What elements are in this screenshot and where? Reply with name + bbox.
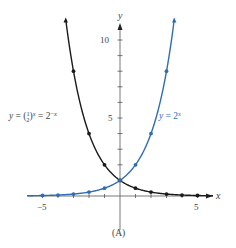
x-tick-label-neg5: −5 (37, 202, 47, 212)
data-point (118, 179, 122, 183)
data-point (103, 163, 107, 167)
data-point (165, 192, 169, 196)
svg-text:y = 2x: y = 2x (158, 110, 181, 122)
series-label-black: y = (12)x = 2−x (8, 110, 57, 124)
exponential-chart: y x 10 5 −5 5 y = (12)x = 2−x y = 2x (A) (0, 0, 236, 248)
y-axis-arrow-icon (118, 23, 123, 30)
data-point (87, 132, 91, 136)
data-point (134, 186, 138, 190)
svg-text:y = (12)x = 2−x: y = (12)x = 2−x (8, 110, 57, 124)
data-point (87, 190, 91, 194)
series-label-blue: y = 2x (158, 110, 181, 122)
y-tick-label-5: 5 (108, 113, 113, 123)
data-point (149, 132, 153, 136)
data-point (72, 69, 76, 73)
data-point (180, 193, 184, 197)
data-point (72, 192, 76, 196)
curve-arrow-icon (172, 18, 176, 23)
curve-two-power (27, 20, 174, 196)
x-tick-label-5: 5 (194, 202, 199, 212)
curve-arrow-icon (64, 18, 68, 23)
y-axis-label: y (117, 10, 123, 21)
data-point (134, 163, 138, 167)
x-axis-label: x (215, 190, 221, 201)
data-point (149, 190, 153, 194)
curve-half-power (66, 20, 213, 196)
data-point (165, 69, 169, 73)
data-point (56, 193, 60, 197)
figure-caption: (A) (112, 228, 125, 239)
y-tick-label-10: 10 (100, 35, 110, 45)
data-point (41, 194, 45, 198)
data-point (103, 186, 107, 190)
data-point (196, 194, 200, 198)
axes (28, 23, 213, 230)
